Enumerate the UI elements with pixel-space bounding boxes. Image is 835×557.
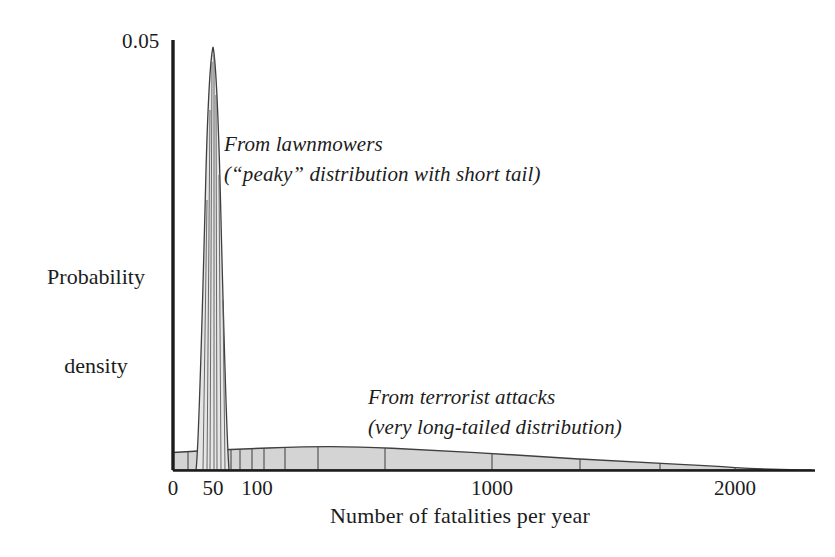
x-tick-label-50: 50 xyxy=(203,476,224,501)
annotation-terrorist-line-2: (very long-tailed distribution) xyxy=(368,413,622,443)
x-tick-label-0: 0 xyxy=(168,476,179,501)
y-axis-title-line-2: density xyxy=(28,351,164,381)
figure-container: 0.05 Probability density 0 50 100 1000 2… xyxy=(0,0,835,557)
annotation-terrorist-attacks: From terrorist attacks (very long-tailed… xyxy=(368,383,622,443)
y-axis-title-line-1: Probability xyxy=(28,262,164,292)
x-axis-title: Number of fatalities per year xyxy=(330,502,590,530)
annotation-terrorist-line-1: From terrorist attacks xyxy=(368,383,622,413)
y-axis-max-tick-label: 0.05 xyxy=(122,28,160,55)
y-axis-title: Probability density xyxy=(28,203,164,441)
annotation-lawnmowers: From lawnmowers (“peaky” distribution wi… xyxy=(224,130,540,190)
x-tick-label-1000: 1000 xyxy=(471,476,513,501)
x-tick-label-100: 100 xyxy=(241,476,273,501)
x-tick-label-2000: 2000 xyxy=(714,476,756,501)
annotation-lawnmowers-line-2: (“peaky” distribution with short tail) xyxy=(224,160,540,190)
annotation-lawnmowers-line-1: From lawnmowers xyxy=(224,130,540,160)
